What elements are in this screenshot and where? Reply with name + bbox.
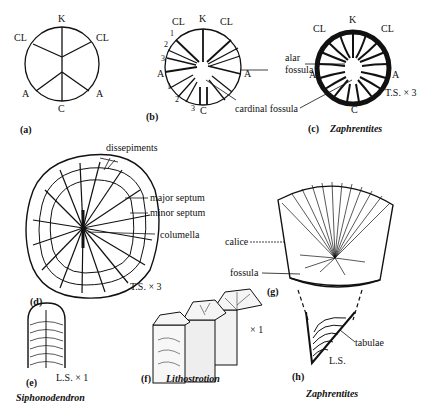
b-number-lower-3: 3 (191, 105, 195, 113)
b-label-k: K (199, 14, 206, 24)
coral-diagram-artwork (0, 0, 429, 413)
c-label-cl-left: CL (313, 24, 326, 34)
b-label-c: C (200, 106, 207, 116)
diagram-a-septal-plan (25, 27, 99, 101)
diagram-e-siphonodendron-ls (28, 303, 65, 368)
diagram-f-lithostrotion-block (153, 289, 262, 383)
a-label-k: K (58, 14, 65, 24)
b-number-lower-2: 2 (175, 96, 179, 104)
c-genus-name: Zaphrentites (330, 124, 382, 134)
d-section-scale: T.S. × 3 (130, 282, 162, 292)
g-annotation-fossula: fossula (230, 268, 258, 278)
a-label-a-right: A (96, 89, 103, 99)
h-genus-name: Zaphrentites (306, 389, 358, 399)
figure-label-c: (c) (308, 124, 319, 134)
h-annotation-tabulae: tabulae (355, 338, 384, 348)
c-label-a-left: A (309, 70, 316, 80)
figure-label-b: (b) (146, 112, 158, 122)
d-annotation-dissepiments: dissepiments (106, 143, 158, 153)
c-label-cl-right: CL (381, 24, 394, 34)
f-scale: × 1 (250, 325, 263, 335)
a-label-cl-left: CL (14, 33, 27, 43)
a-label-a-left: A (22, 89, 29, 99)
f-genus-name: Lithostrotion (166, 374, 220, 384)
b-annotation-alar-fossula: alar fossula (270, 52, 325, 76)
figure-label-a: (a) (20, 125, 32, 135)
b-label-a-right: A (244, 69, 251, 79)
figure-label-e: (e) (26, 378, 37, 388)
b-annotation-cardinal-fossula: cardinal fossula (235, 104, 298, 114)
figure-label-g: (g) (267, 287, 279, 297)
h-section: L.S. (329, 356, 346, 366)
c-label-k: K (349, 15, 356, 25)
d-annotation-major-septum: major septum (150, 193, 205, 203)
e-section-scale: L.S. × 1 (56, 373, 88, 383)
c-section-scale: T.S. × 3 (385, 88, 417, 98)
a-label-c: C (58, 104, 65, 114)
e-genus-name: Siphonodendron (16, 393, 85, 403)
diagram-g-calice-view (250, 182, 393, 320)
b-number-upper-1: 1 (170, 30, 174, 38)
figure-label-f: (f) (141, 374, 151, 384)
b-label-a-left: A (157, 69, 164, 79)
b-number-upper-3: 3 (161, 55, 165, 63)
diagram-d-transverse-section (26, 154, 159, 298)
b-label-cl-right: CL (220, 17, 233, 27)
d-annotation-columella: columella (160, 230, 199, 240)
g-annotation-calice: calice (225, 237, 248, 247)
figure-label-h: (h) (292, 372, 304, 382)
d-annotation-minor-septum: minor septum (150, 208, 205, 218)
figure-label-d: (d) (30, 297, 42, 307)
c-label-a-right: A (392, 70, 399, 80)
b-number-upper-2: 2 (164, 41, 168, 49)
c-label-c: C (351, 105, 358, 115)
a-label-cl-right: CL (96, 33, 109, 43)
b-label-cl-left: CL (172, 17, 185, 27)
b-number-lower-1: 1 (167, 83, 171, 91)
diagram-b-septal-insertion (165, 29, 268, 105)
